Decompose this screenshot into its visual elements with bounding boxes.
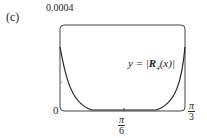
eq-suffix: (x)| [160, 57, 175, 69]
x-tick-label-pi-over-3: π 3 [188, 101, 195, 122]
eq-prefix: y = | [128, 57, 149, 69]
y-axis-zero-label: 0 [53, 104, 59, 116]
panel-label: (c) [6, 10, 19, 25]
x-tick-label-pi-over-6: π 6 [118, 115, 125, 136]
fraction-denominator: 3 [188, 112, 195, 122]
y-axis-max-label: 0.0004 [46, 2, 74, 13]
fraction-denominator: 6 [118, 126, 125, 136]
plot-area [0, 0, 207, 138]
curve-annotation: y = |R4(x)| [128, 57, 175, 72]
